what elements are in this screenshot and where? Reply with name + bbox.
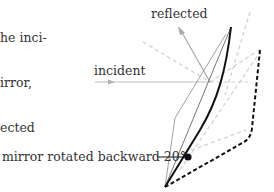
mirror-rotated-label: mirror rotated backward 20° — [2, 150, 186, 164]
incident-ray — [95, 80, 210, 85]
reflected-label: reflected — [151, 7, 208, 21]
reflected-ray — [178, 26, 210, 82]
incident-arrow-icon — [108, 80, 115, 85]
dashed-guide-lines — [143, 12, 262, 170]
reflected-arrow-icon — [178, 26, 185, 35]
incident-label: incident — [94, 64, 146, 78]
